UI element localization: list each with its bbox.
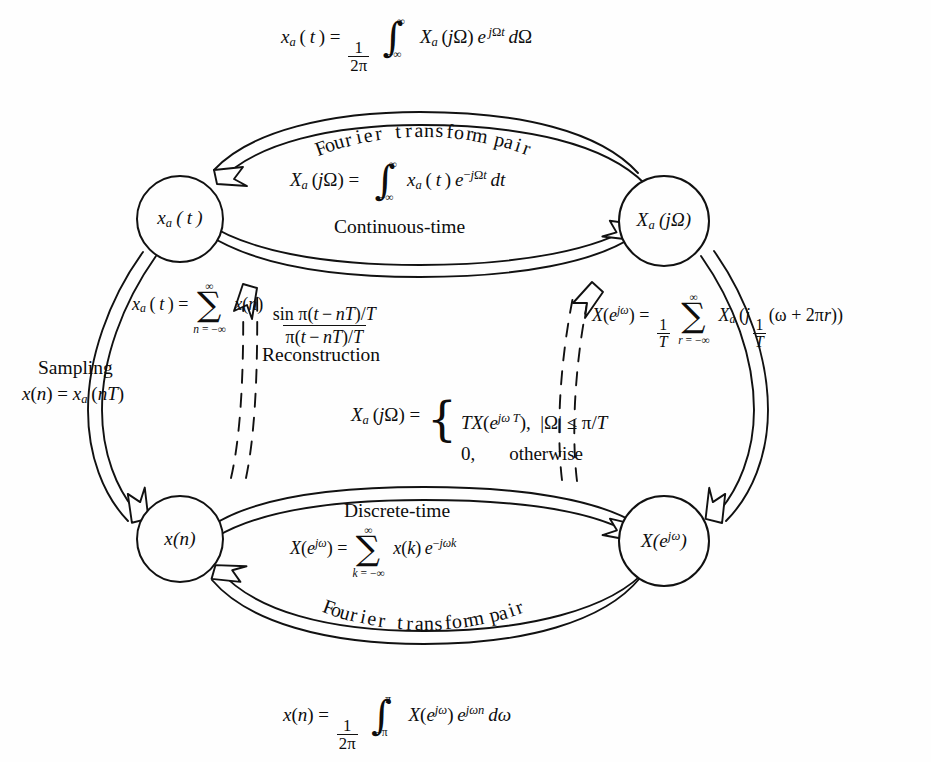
curved-label-char xyxy=(387,610,395,633)
label-bottom-fourier-pair: Fourier transform pair xyxy=(0,0,931,762)
curved-label-char: t xyxy=(397,611,404,634)
curved-label-char: s xyxy=(434,611,443,634)
curved-label-char: a xyxy=(415,612,424,635)
figure-canvas: xa ( t ) Xa (jΩ) x(n) X(ejω) Fourier tra… xyxy=(0,0,931,762)
curved-label-char: n xyxy=(424,612,434,635)
label-sampling: Sampling xyxy=(38,357,113,379)
curved-label-char: r xyxy=(406,612,414,635)
label-continuous-time: Continuous-time xyxy=(334,216,465,238)
curved-label-char: r xyxy=(377,609,387,633)
label-reconstruction: Reconstruction xyxy=(262,344,380,366)
label-discrete-time: Discrete-time xyxy=(344,500,450,522)
